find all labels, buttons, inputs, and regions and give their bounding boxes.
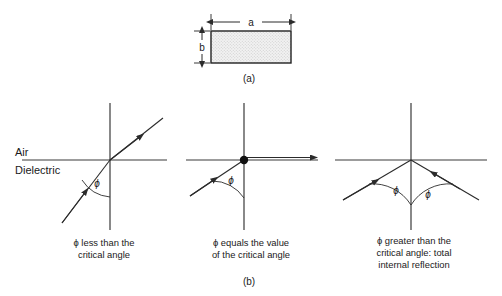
panel-a-label: (a) bbox=[243, 73, 255, 84]
angle-arc-3-right bbox=[411, 184, 453, 205]
angle-arc-3-left bbox=[369, 184, 411, 205]
panel-a-diagram: a b (a) bbox=[0, 0, 502, 95]
diagram-greater-than-critical: ϕ ϕ ϕ greater than the critical angle: t… bbox=[335, 103, 487, 270]
phi-label-1: ϕ bbox=[94, 178, 100, 189]
caption-2-line-2: of the critical angle bbox=[212, 249, 290, 260]
phi-label-3-left: ϕ bbox=[393, 185, 399, 196]
caption-2-line-1: ϕ equals the value bbox=[213, 237, 289, 248]
dielectric-slab-rect bbox=[211, 31, 291, 63]
caption-1-line-1: ϕ less than the bbox=[73, 237, 134, 248]
phi-label-3-right: ϕ bbox=[425, 189, 431, 200]
incident-ray-arrow-2 bbox=[190, 179, 215, 196]
reflected-ray-arrow-3 bbox=[433, 173, 460, 189]
panel-b-label: (b) bbox=[243, 276, 255, 287]
origin-dot-2 bbox=[240, 156, 248, 164]
label-dielectric: Dielectric bbox=[15, 164, 61, 176]
figure-container: a b (a) bbox=[0, 0, 502, 296]
diagram-less-than-critical: ϕ Air Dielectric ϕ less than the critica… bbox=[15, 103, 167, 260]
caption-3-line-1: ϕ greater than the bbox=[377, 235, 451, 246]
phi-label-2: ϕ bbox=[228, 175, 234, 186]
panel-b-diagram: ϕ Air Dielectric ϕ less than the critica… bbox=[0, 95, 502, 296]
refracted-ray-arrow-1 bbox=[110, 136, 141, 160]
label-air: Air bbox=[15, 146, 29, 158]
diagram-equals-critical: ϕ ϕ equals the value of the critical ang… bbox=[186, 103, 318, 260]
caption-3-line-2: critical angle: total bbox=[376, 247, 451, 258]
caption-1-line-2: critical angle bbox=[78, 249, 130, 260]
dim-a-label: a bbox=[248, 17, 254, 28]
caption-3-line-3: internal reflection bbox=[378, 259, 449, 270]
incident-ray-arrow-1 bbox=[62, 191, 86, 223]
dim-b-label: b bbox=[199, 42, 205, 53]
